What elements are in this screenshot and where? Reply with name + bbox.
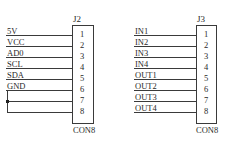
j2-pin-number: 6	[80, 84, 84, 94]
schematic-canvas: J2 CON8 1 2 3 4 5 6 7 8 5V VCC	[0, 0, 228, 146]
net-label: VCC	[7, 37, 25, 47]
j3-ref-label: J3	[197, 14, 206, 24]
j2-pin-number: 8	[80, 106, 84, 116]
j3-pin-number: 3	[204, 51, 208, 61]
j2-pin-number: 5	[80, 73, 84, 83]
j3-pin-number: 1	[204, 29, 208, 39]
net-label: OUT3	[135, 92, 157, 102]
j2-part-label: CON8	[73, 125, 95, 135]
j2-pin-number: 3	[80, 51, 84, 61]
j3-part-label: CON8	[196, 125, 218, 135]
net-label: IN3	[135, 48, 148, 58]
junction-dot	[6, 100, 9, 103]
j2-pin-number: 7	[80, 95, 84, 105]
j3-pin-number: 2	[204, 40, 208, 50]
j2-pin-number: 2	[80, 40, 84, 50]
j2-pin-number: 1	[80, 29, 84, 39]
net-label: OUT2	[135, 81, 157, 91]
j3-pin-number: 5	[204, 73, 208, 83]
j3-pin-number: 6	[204, 84, 208, 94]
net-label: SCL	[7, 59, 23, 69]
net-label: IN4	[135, 59, 149, 69]
net-label: OUT4	[135, 103, 157, 113]
net-label: GND	[7, 81, 25, 91]
j3-pin-number: 7	[204, 95, 208, 105]
j3-pin-number: 4	[204, 62, 209, 72]
connector-j3: J3 CON8 1 2 3 4 5 6 7 8 IN1 IN2 IN3	[134, 14, 218, 135]
net-label: 5V	[7, 26, 18, 36]
net-label: IN1	[135, 26, 148, 36]
net-label: OUT1	[135, 70, 157, 80]
net-label: IN2	[135, 37, 148, 47]
net-label: AD0	[7, 48, 24, 58]
j3-pin-number: 8	[204, 106, 208, 116]
j2-ref-label: J2	[73, 14, 81, 24]
net-label: SDA	[7, 70, 25, 80]
connector-j2: J2 CON8 1 2 3 4 5 6 7 8 5V VCC	[6, 14, 95, 135]
j2-pin-number: 4	[80, 62, 85, 72]
